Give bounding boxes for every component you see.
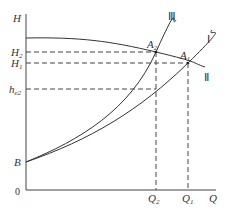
label-curve-II: Ⅱ	[204, 71, 209, 83]
tick-q1: Q1	[182, 192, 193, 206]
label-a1: A1	[179, 49, 190, 63]
curve-I-system	[26, 30, 215, 162]
x-axis-label: Q	[209, 192, 217, 204]
origin-label: 0	[15, 186, 20, 197]
label-a2: A2	[146, 38, 158, 52]
tick-b: B	[14, 156, 21, 168]
tick-q2: Q2	[148, 192, 160, 206]
label-curve-III: Ⅲ	[168, 10, 176, 22]
label-curve-I: Ⅰ	[207, 33, 210, 45]
pump-system-curve-diagram: H Q 0 H2 H1 he2 B Q2 Q1 A2 A1 Ⅲ Ⅰ Ⅱ	[0, 0, 228, 218]
y-axis-label: H	[12, 12, 22, 24]
tick-he2: he2	[9, 83, 22, 97]
